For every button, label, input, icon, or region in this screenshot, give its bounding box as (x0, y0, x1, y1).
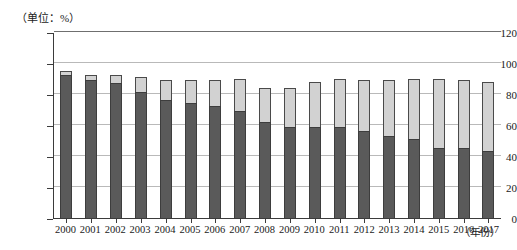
bar-segment-upper (209, 80, 221, 106)
stacked-bar[interactable] (60, 71, 72, 218)
bar-segment-lower (234, 111, 246, 218)
bar-segment-upper (110, 75, 122, 83)
bar-segment-lower (185, 103, 197, 218)
x-axis-title: （年份） (460, 224, 500, 239)
bar-segment-upper (482, 82, 494, 152)
x-tick-label: 2013 (377, 224, 402, 244)
bar-segment-upper (309, 82, 321, 127)
x-tick-label: 2003 (128, 224, 153, 244)
bar-segment-upper (234, 79, 246, 112)
gridline-120 (54, 31, 501, 32)
bar-segment-upper (259, 88, 271, 122)
bar-slot (153, 33, 178, 218)
x-tick-mark (414, 218, 415, 223)
bar-segment-upper (358, 80, 370, 131)
bar-segment-lower (482, 151, 494, 218)
x-tick-mark (439, 218, 440, 223)
stacked-bar[interactable] (85, 75, 97, 218)
bar-slot (426, 33, 451, 218)
x-tick-label: 2010 (302, 224, 327, 244)
y-axis-unit-label: （单位：%） (16, 9, 80, 25)
stacked-bar[interactable] (135, 77, 147, 218)
bar-segment-lower (433, 148, 445, 218)
stacked-bar[interactable] (160, 80, 172, 218)
x-tick-label: 2011 (327, 224, 352, 244)
bar-segment-lower (209, 106, 221, 218)
stacked-bar[interactable] (234, 79, 246, 218)
stacked-bar[interactable] (458, 80, 470, 218)
bar-slot (203, 33, 228, 218)
stacked-bar-chart: （单位：%） 020406080100120 20002001200220032… (0, 0, 517, 250)
x-tick-label: 2002 (103, 224, 128, 244)
x-tick-label: 2007 (227, 224, 252, 244)
bar-segment-lower (60, 75, 72, 218)
bar-slot (128, 33, 153, 218)
stacked-bar[interactable] (433, 79, 445, 219)
stacked-bar[interactable] (110, 75, 122, 218)
bar-slot (402, 33, 427, 218)
x-tick-label: 2012 (352, 224, 377, 244)
x-tick-mark (215, 218, 216, 223)
bar-segment-lower (110, 83, 122, 218)
x-tick-mark (66, 218, 67, 223)
bar-segment-lower (284, 127, 296, 218)
bar-slot (377, 33, 402, 218)
x-tick-mark (290, 218, 291, 223)
x-tick-mark (265, 218, 266, 223)
bar-group (54, 33, 501, 218)
bar-segment-lower (135, 92, 147, 218)
bar-slot (327, 33, 352, 218)
bar-segment-lower (358, 131, 370, 218)
stacked-bar[interactable] (309, 82, 321, 218)
bar-slot (476, 33, 501, 218)
stacked-bar[interactable] (383, 80, 395, 218)
x-axis-label-group: 2000200120022003200420052006200720082009… (53, 224, 501, 244)
bar-segment-upper (433, 79, 445, 149)
x-tick-label: 2000 (53, 224, 78, 244)
bar-segment-upper (334, 79, 346, 127)
bar-slot (302, 33, 327, 218)
stacked-bar[interactable] (284, 88, 296, 218)
bar-segment-lower (408, 139, 420, 218)
bar-segment-lower (309, 127, 321, 218)
bar-segment-lower (259, 122, 271, 218)
stacked-bar[interactable] (482, 82, 494, 218)
stacked-bar[interactable] (209, 80, 221, 218)
x-tick-label: 2014 (401, 224, 426, 244)
x-tick-label: 2008 (252, 224, 277, 244)
x-tick-mark (389, 218, 390, 223)
stacked-bar[interactable] (259, 88, 271, 218)
bar-segment-upper (160, 80, 172, 100)
x-tick-label: 2006 (202, 224, 227, 244)
y-tick-mark (47, 219, 53, 220)
stacked-bar[interactable] (334, 79, 346, 218)
x-tick-mark (340, 218, 341, 223)
bar-slot (228, 33, 253, 218)
x-tick-label: 2001 (78, 224, 103, 244)
bar-segment-upper (408, 79, 420, 139)
x-tick-mark (191, 218, 192, 223)
bar-segment-lower (85, 80, 97, 218)
plot-area (53, 33, 501, 219)
bar-segment-upper (135, 77, 147, 93)
x-tick-mark (141, 218, 142, 223)
x-tick-label: 2015 (426, 224, 451, 244)
bar-segment-lower (334, 127, 346, 218)
bar-segment-lower (458, 148, 470, 218)
stacked-bar[interactable] (358, 80, 370, 218)
x-tick-mark (91, 218, 92, 223)
x-tick-label: 2009 (277, 224, 302, 244)
bar-segment-upper (284, 88, 296, 127)
stacked-bar[interactable] (185, 80, 197, 218)
bar-slot (253, 33, 278, 218)
x-tick-mark (240, 218, 241, 223)
bar-segment-upper (458, 80, 470, 148)
bar-segment-lower (160, 100, 172, 218)
x-tick-mark (488, 218, 489, 223)
x-tick-mark (364, 218, 365, 223)
x-tick-mark (464, 218, 465, 223)
bar-slot (104, 33, 129, 218)
stacked-bar[interactable] (408, 79, 420, 218)
bar-slot (178, 33, 203, 218)
bar-segment-upper (185, 80, 197, 103)
